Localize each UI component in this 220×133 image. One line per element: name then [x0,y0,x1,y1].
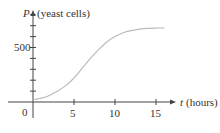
x-axis-var: t [180,96,184,108]
x-tick-label-15: 15 [150,107,162,119]
y-tick-label-500: 500 [14,41,31,53]
x-tick-label-10: 10 [109,107,121,119]
y-axis-unit: (yeast cells) [37,7,90,20]
x-axis-arrow-icon [170,100,176,105]
origin-label: 0 [22,106,28,118]
x-tick-label-5: 5 [70,107,76,119]
y-axis-var: P [22,7,30,19]
chart: 500 0 5 10 15 P (yeast cells) t (hours) [0,0,220,133]
x-axis-unit: (hours) [186,96,218,109]
growth-curve [33,28,164,100]
